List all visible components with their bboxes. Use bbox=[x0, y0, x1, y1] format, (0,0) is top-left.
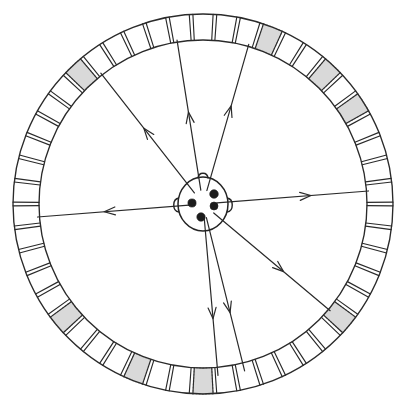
diagram-canvas bbox=[0, 0, 408, 407]
loudspeaker-segment-active[interactable] bbox=[193, 368, 213, 394]
source-dot-4[interactable] bbox=[197, 213, 205, 221]
source-dot-2[interactable] bbox=[210, 190, 219, 199]
source-dot-1[interactable] bbox=[188, 199, 196, 207]
canvas-background bbox=[0, 0, 408, 407]
source-dot-3[interactable] bbox=[210, 202, 218, 210]
sound-localization-diagram bbox=[0, 0, 408, 407]
loudspeaker-segment[interactable] bbox=[193, 14, 213, 40]
